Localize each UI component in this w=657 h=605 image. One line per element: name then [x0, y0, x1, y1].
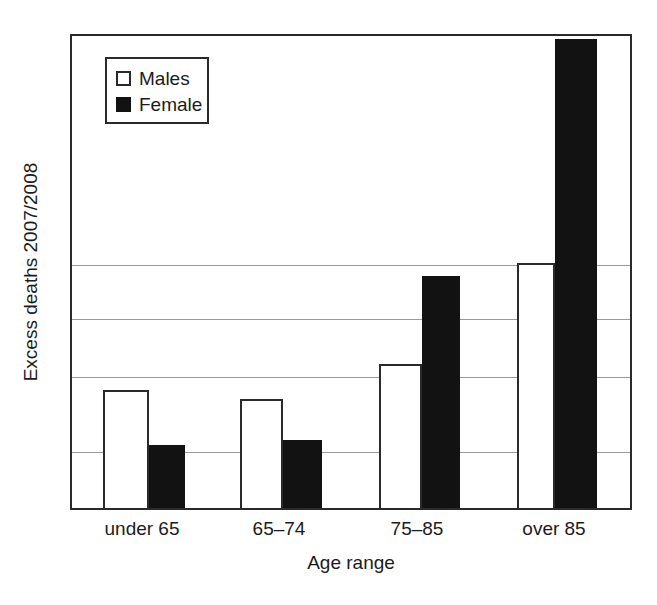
bar-female-65-74	[283, 440, 322, 508]
y-axis-title-text: Excess deaths 2007/2008	[20, 163, 42, 382]
x-tick-label-0: under 65	[104, 518, 179, 540]
x-tick-label-1: 65–74	[253, 518, 306, 540]
legend-label-males: Males	[139, 69, 190, 88]
bar-males-under-65	[103, 390, 149, 508]
bar-males-75-85	[379, 364, 422, 508]
bar-female-over-85	[555, 39, 597, 508]
legend-item-males: Males	[116, 65, 207, 91]
y-axis-title: Excess deaths 2007/2008	[14, 34, 48, 510]
bar-males-over-85	[517, 263, 555, 508]
bar-female-75-85	[422, 276, 460, 508]
x-tick-label-3: over 85	[522, 518, 585, 540]
bar-chart-figure: Excess deaths 2007/2008 Males Female und…	[0, 0, 657, 605]
legend-item-female: Female	[116, 91, 207, 117]
legend: Males Female	[105, 57, 209, 124]
legend-swatch-female-icon	[116, 97, 131, 112]
x-axis-tick-labels: under 6565–7475–85over 85	[70, 518, 632, 546]
bar-males-65-74	[240, 399, 283, 508]
legend-swatch-males-icon	[116, 71, 131, 86]
bar-female-under-65	[149, 445, 185, 508]
x-tick-label-2: 75–85	[391, 518, 444, 540]
plot-area: Males Female	[70, 34, 632, 510]
legend-label-female: Female	[139, 95, 202, 114]
x-axis-title: Age range	[70, 552, 632, 574]
